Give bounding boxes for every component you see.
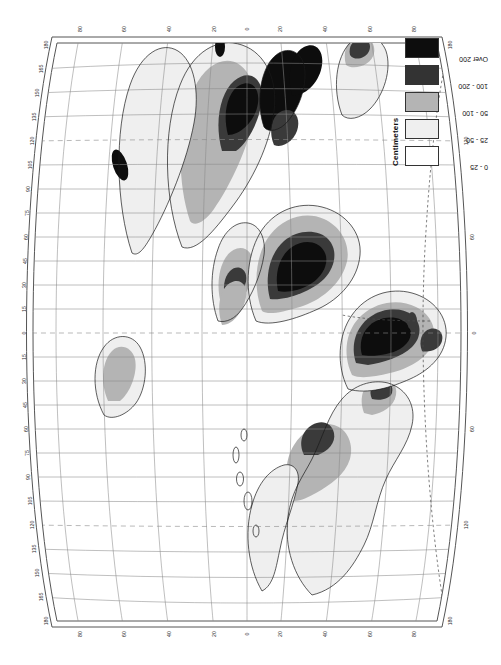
tick-lon: 165 xyxy=(38,65,44,74)
tick-lon: 30 xyxy=(21,378,27,384)
legend-label-3: 100 - 200 xyxy=(458,83,488,90)
tick-lon: 0 xyxy=(21,331,27,334)
tick-lon: 15 xyxy=(21,306,27,312)
tick-lon-b: 60 xyxy=(469,234,475,240)
tick-lon: 90 xyxy=(25,474,31,480)
legend-swatch-1 xyxy=(405,119,439,139)
map-sheet: 180 165 150 135 120 105 90 75 60 45 30 1… xyxy=(0,0,501,665)
tick-lat-r: 80 xyxy=(77,26,83,32)
tick-lat: 20 xyxy=(211,631,217,637)
tick-lon-b: 120 xyxy=(463,521,469,530)
tick-lat-r: 40 xyxy=(322,26,328,32)
tick-lon-b: 180 xyxy=(447,617,453,626)
tick-lon: 75 xyxy=(24,210,30,216)
tick-lon: 45 xyxy=(22,402,28,408)
tick-lat-r: 20 xyxy=(277,26,283,32)
tick-lat: 80 xyxy=(77,631,83,637)
tick-lat: 40 xyxy=(322,631,328,637)
tick-lon: 105 xyxy=(27,161,33,170)
tick-lat: 0 xyxy=(244,632,250,635)
tick-lat: 40 xyxy=(166,631,172,637)
tick-lon: 15 xyxy=(21,354,27,360)
legend-swatch-3 xyxy=(405,65,439,85)
map-page: 180 165 150 135 120 105 90 75 60 45 30 1… xyxy=(0,0,501,665)
tick-lat-r: 40 xyxy=(166,26,172,32)
tick-lon-b: 0 xyxy=(471,331,477,334)
tick-lat: 60 xyxy=(367,631,373,637)
tick-lon: 60 xyxy=(23,234,29,240)
tick-lon: 180 xyxy=(43,617,49,626)
tick-lat-r: 60 xyxy=(367,26,373,32)
legend-swatch-2 xyxy=(405,92,439,112)
legend-swatch-0 xyxy=(405,146,439,166)
tick-lon: 45 xyxy=(22,258,28,264)
tick-lon: 135 xyxy=(31,545,37,554)
tick-lon: 75 xyxy=(24,450,30,456)
legend-label-1: 25 - 50 xyxy=(466,137,488,144)
tick-lon: 120 xyxy=(29,521,35,530)
tick-lon: 165 xyxy=(38,593,44,602)
legend-label-2: 50 - 100 xyxy=(462,110,488,117)
tick-lon-b: 60 xyxy=(469,426,475,432)
tick-lon: 135 xyxy=(31,113,37,122)
tick-lat-r: 0 xyxy=(244,27,250,30)
tick-lon: 150 xyxy=(34,89,40,98)
tick-lon: 30 xyxy=(21,282,27,288)
legend-label-0: 0 - 25 xyxy=(470,164,488,171)
legend-label-4: Over 200 xyxy=(459,56,488,63)
tick-lon: 150 xyxy=(34,569,40,578)
legend-swatch-4 xyxy=(405,38,439,58)
legend-title: Centimeters xyxy=(391,118,400,166)
map-legend: Centimeters 0 - 25 25 - 50 xyxy=(391,16,487,166)
tick-lon: 90 xyxy=(25,186,31,192)
tick-lat-r: 20 xyxy=(211,26,217,32)
tick-lat: 20 xyxy=(277,631,283,637)
tick-lat-r: 60 xyxy=(121,26,127,32)
tick-lat: 80 xyxy=(411,631,417,637)
tick-lat: 60 xyxy=(121,631,127,637)
tick-lon: 180 xyxy=(43,41,49,50)
tick-lon: 120 xyxy=(29,137,35,146)
tick-lon: 105 xyxy=(27,497,33,506)
tick-lon: 60 xyxy=(23,426,29,432)
